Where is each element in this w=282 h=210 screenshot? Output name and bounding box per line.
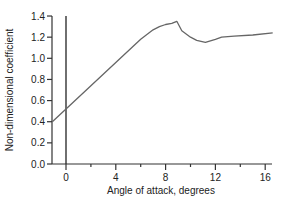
- x-tick-label: 8: [163, 172, 169, 183]
- plot-area: 0.00.20.40.60.81.01.21.40481216: [31, 11, 273, 183]
- x-tick-label: 4: [113, 172, 119, 183]
- chart: 0.00.20.40.60.81.01.21.40481216 Angle of…: [0, 0, 282, 210]
- y-tick-label: 0.6: [31, 95, 45, 106]
- y-tick-label: 0.0: [31, 159, 45, 170]
- y-tick-label: 1.0: [31, 53, 45, 64]
- x-tick-label: 0: [63, 172, 69, 183]
- y-axis-label: Non-dimensional coefficient: [4, 28, 15, 151]
- x-axis-label: Angle of attack, degrees: [107, 185, 215, 196]
- data-line: [52, 21, 272, 121]
- y-tick-label: 1.4: [31, 11, 45, 22]
- x-tick-label: 16: [260, 172, 272, 183]
- y-tick-label: 0.2: [31, 137, 45, 148]
- y-tick-label: 0.4: [31, 116, 45, 127]
- x-tick-label: 12: [210, 172, 222, 183]
- y-tick-label: 1.2: [31, 32, 45, 43]
- y-tick-label: 0.8: [31, 74, 45, 85]
